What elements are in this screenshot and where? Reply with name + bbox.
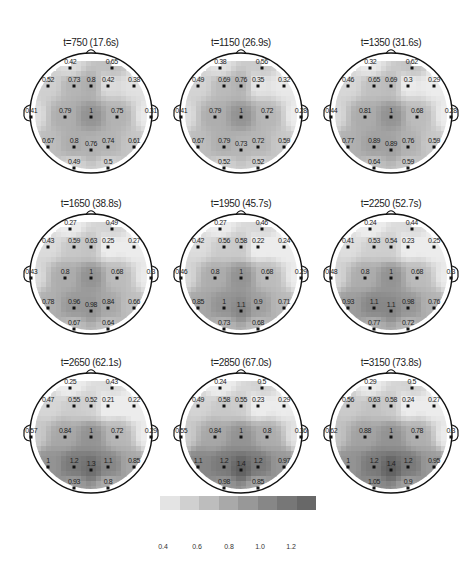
electrode-value: 0.65 [106, 58, 118, 65]
electrode-value: 1 [239, 107, 243, 114]
electrode-marker [30, 436, 33, 439]
electrode-value: 1.1 [237, 301, 246, 308]
electrode-marker [90, 436, 93, 439]
electrode-value: 0.59 [278, 137, 290, 144]
electrode-value: 0.76 [428, 298, 440, 305]
electrode-marker [106, 307, 109, 310]
colorbar-swatch [160, 496, 180, 510]
electrode-marker [299, 116, 302, 119]
panel-title: t=1350 (31.6s) [316, 37, 466, 48]
colorbar-swatch [258, 496, 278, 510]
colorbar-swatch [180, 496, 200, 510]
electrode-marker [116, 116, 119, 119]
colorbar [160, 496, 316, 510]
electrode-marker [69, 386, 72, 389]
electrode-value: 0.27 [214, 219, 226, 226]
electrode-marker [132, 246, 135, 249]
electrode-marker [30, 116, 33, 119]
electrode-value: 0.9 [404, 478, 413, 485]
electrode-value: 0.72 [252, 137, 264, 144]
electrode-marker [106, 146, 109, 149]
electrode-marker [432, 146, 435, 149]
electrode-marker [432, 466, 435, 469]
electrode-value: 0.73 [68, 76, 80, 83]
electrode-marker [266, 116, 269, 119]
head-map: 0.290.50.560.630.580.240.270.620.8810.78… [326, 371, 456, 495]
electrode-value: 1 [89, 107, 93, 114]
electrode-value: 0.63 [85, 237, 97, 244]
electrode-value: 0.25 [64, 378, 76, 385]
electrode-value: 0.32 [278, 76, 290, 83]
electrode-value: 0.42 [102, 76, 114, 83]
electrode-marker [90, 277, 93, 280]
electrode-value: 0.52 [42, 76, 54, 83]
electrode-value: 1 [389, 268, 393, 275]
electrode-value: 0.73 [218, 319, 230, 326]
electrode-marker [373, 246, 376, 249]
electrode-value: 0.98 [402, 298, 414, 305]
electrode-marker [299, 436, 302, 439]
topomap-panel: t=750 (17.6s)0.420.650.520.730.80.420.38… [16, 37, 166, 207]
electrode-marker [197, 146, 200, 149]
electrode-value: 0.46 [256, 219, 268, 226]
electrode-marker [90, 85, 93, 88]
electrode-value: 0.8 [61, 268, 70, 275]
electrode-marker [406, 307, 409, 310]
electrode-marker [330, 116, 333, 119]
electrode-value: 0.38 [214, 58, 226, 65]
electrode-marker [330, 436, 333, 439]
electrode-marker [390, 277, 393, 280]
electrode-marker [47, 405, 50, 408]
electrode-value: 0.54 [385, 237, 397, 244]
electrode-marker [256, 167, 259, 170]
electrode-value: 1.4 [237, 460, 246, 467]
electrode-marker [149, 277, 152, 280]
electrode-marker [240, 246, 243, 249]
electrode-value: 1 [346, 457, 350, 464]
electrode-marker [406, 146, 409, 149]
electrode-marker [106, 328, 109, 331]
electrode-marker [282, 405, 285, 408]
electrode-value: 0.9 [254, 298, 263, 305]
electrode-marker [180, 116, 183, 119]
electrode-value: 0.58 [385, 396, 397, 403]
electrode-value: 0.22 [252, 237, 264, 244]
electrode-marker [416, 116, 419, 119]
electrode-value: 0.98 [85, 301, 97, 308]
electrode-marker [110, 66, 113, 69]
electrode-value: 0.72 [402, 319, 414, 326]
electrode-marker [406, 246, 409, 249]
electrode-value: 0.59 [402, 158, 414, 165]
electrode-marker [432, 246, 435, 249]
electrode-marker [132, 466, 135, 469]
electrode-value: 0.76 [235, 76, 247, 83]
electrode-value: 0.42 [192, 237, 204, 244]
electrode-value: 0.77 [368, 319, 380, 326]
electrode-marker [116, 436, 119, 439]
electrode-marker [256, 328, 259, 331]
electrode-marker [373, 487, 376, 490]
electrode-marker [390, 468, 393, 471]
electrode-value: 1 [222, 298, 226, 305]
electrode-marker [390, 148, 393, 151]
electrode-value: 0.8 [70, 137, 79, 144]
colorbar-swatch [219, 496, 239, 510]
electrode-marker [390, 116, 393, 119]
electrode-marker [410, 227, 413, 230]
electrode-value: 0.25 [428, 237, 440, 244]
electrode-value: 0.76 [402, 137, 414, 144]
electrode-marker [416, 277, 419, 280]
electrode-value: 0.85 [192, 298, 204, 305]
electrode-value: 0.89 [385, 140, 397, 147]
electrode-value: 0.24 [278, 237, 290, 244]
electrode-value: 0.62 [406, 58, 418, 65]
electrode-marker [432, 405, 435, 408]
head-map: 0.270.460.420.560.580.220.240.460.810.68… [176, 212, 306, 336]
electrode-marker [406, 405, 409, 408]
electrode-value: 0.55 [175, 427, 187, 434]
electrode-marker [214, 436, 217, 439]
electrode-value: 0.67 [42, 137, 54, 144]
electrode-marker [390, 436, 393, 439]
electrode-value: 0.52 [252, 158, 264, 165]
electrode-value: 0.29 [364, 378, 376, 385]
